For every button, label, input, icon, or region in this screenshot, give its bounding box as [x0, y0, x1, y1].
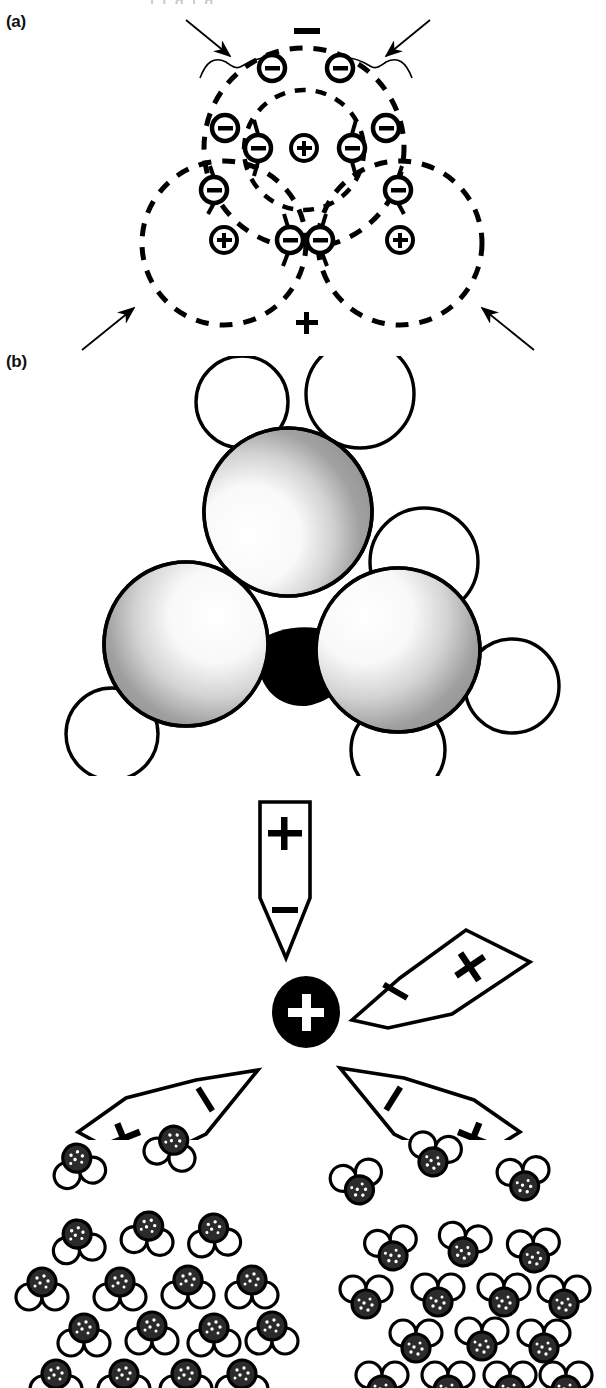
panel-a-polarity-bottom: [296, 312, 318, 334]
nucleus-right: [387, 227, 413, 253]
central-cation: [272, 976, 340, 1048]
dipole-up: [260, 802, 310, 958]
dipole-upper-right: [352, 930, 530, 1028]
panel-a-lewis-shell-diagram: [0, 0, 606, 352]
panel-a-polarity-top: [294, 28, 320, 34]
negative-electrode-group: [10, 1120, 298, 1388]
arrow-bottom-left: [82, 308, 134, 350]
electrode-dipole-orientation-diagram: [0, 1118, 606, 1388]
arrow-bottom-right: [482, 308, 534, 350]
arrow-top-left: [186, 20, 230, 56]
figure-root: i i g i g (a): [0, 0, 606, 1388]
dipole-vector-diagram: [0, 780, 606, 1140]
nucleus-central: [291, 135, 317, 161]
positive-electrode-group: [324, 1130, 598, 1388]
panel-b-space-filling-model: [0, 356, 606, 776]
arrow-top-right: [386, 20, 430, 56]
nucleus-left: [211, 227, 237, 253]
